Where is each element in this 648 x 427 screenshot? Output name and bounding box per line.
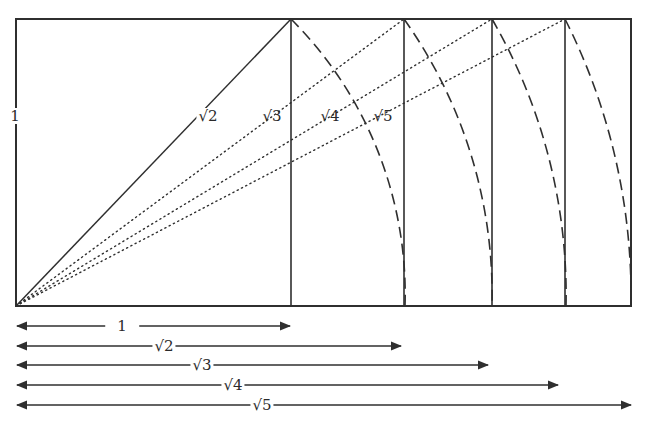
root-rectangles-diagram: [0, 0, 648, 427]
arc-root2: [291, 19, 405, 306]
arrow-label-root2: √2: [152, 338, 175, 354]
diagonal-label-root2: √2: [196, 108, 219, 124]
arrow-label-root4: √4: [221, 377, 244, 393]
diagonal-label-root3: √3: [260, 108, 283, 124]
diagonal-root3: [16, 19, 404, 306]
diagonal-root4: [16, 19, 492, 306]
arrow-label-root5: √5: [250, 397, 273, 413]
diagonal-root2: [16, 19, 291, 306]
arc-root4: [492, 19, 566, 306]
arrow-label-1: 1: [105, 318, 139, 334]
arrow-label-root3: √3: [190, 357, 213, 373]
arc-root3: [404, 19, 492, 306]
arc-root5: [565, 19, 631, 306]
diagonal-label-root4: √4: [318, 108, 341, 124]
outer-frame: [16, 19, 631, 306]
side-label-1: 1: [8, 108, 22, 124]
diagonal-label-root5: √5: [371, 108, 394, 124]
